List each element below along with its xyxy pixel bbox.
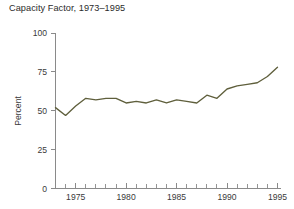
x-tick-label: 1985 [167, 192, 186, 202]
x-tick-label: 1995 [268, 192, 287, 202]
y-tick-label: 25 [37, 145, 47, 155]
y-axis-title: Percent [13, 96, 23, 126]
capacity-factor-chart: Capacity Factor, 1973–1995 0255075100 19… [0, 0, 294, 209]
x-tick-label: 1980 [117, 192, 136, 202]
x-tick-label: 1975 [66, 192, 85, 202]
chart-plot-area: 0255075100 19751980198519901995 Percent [0, 0, 294, 209]
y-axis-tick-labels: 0255075100 [33, 28, 48, 194]
x-axis-minor-ticks [56, 184, 268, 189]
y-tick-label: 0 [42, 184, 47, 194]
x-tick-label: 1990 [217, 192, 236, 202]
capacity-factor-series [56, 67, 278, 115]
x-axis-tick-labels: 19751980198519901995 [66, 192, 287, 202]
y-tick-label: 75 [37, 67, 47, 77]
y-tick-label: 100 [33, 28, 48, 38]
y-tick-label: 50 [37, 106, 47, 116]
y-axis-ticks [51, 33, 56, 189]
